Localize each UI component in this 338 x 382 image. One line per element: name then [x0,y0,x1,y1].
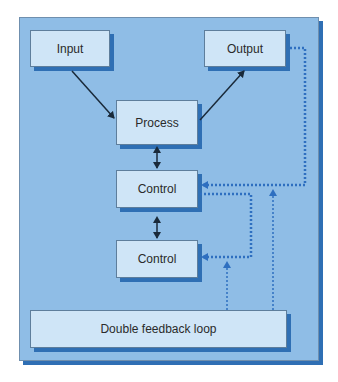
arrow-process-to-output [200,71,244,120]
connector-lines [0,0,338,382]
dotted-control1-to-control2 [200,194,251,257]
arrow-input-to-process [72,71,114,118]
dotted-output-to-control1 [202,48,305,185]
